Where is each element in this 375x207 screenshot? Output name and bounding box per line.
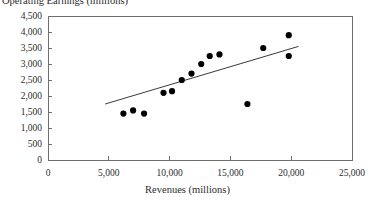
data-point bbox=[141, 111, 147, 117]
data-point bbox=[188, 71, 194, 77]
y-tick-label: 1,500 bbox=[0, 107, 42, 117]
x-tick-label: 20,000 bbox=[268, 168, 314, 178]
data-point bbox=[207, 53, 213, 59]
data-point bbox=[179, 77, 185, 83]
x-tick-label: 10,000 bbox=[147, 168, 193, 178]
y-tick-label: 3,500 bbox=[0, 43, 42, 53]
data-point bbox=[160, 90, 166, 96]
y-tick-label: 500 bbox=[0, 139, 42, 149]
y-tick-label: 0 bbox=[0, 155, 42, 165]
axes bbox=[48, 16, 352, 160]
x-tick-label: 5,000 bbox=[86, 168, 132, 178]
axis-frame bbox=[48, 16, 352, 160]
data-point bbox=[216, 51, 222, 57]
y-tick-label: 1,000 bbox=[0, 123, 42, 133]
data-point bbox=[286, 53, 292, 59]
data-point bbox=[120, 111, 126, 117]
trend-line-segment bbox=[105, 46, 298, 104]
y-tick-label: 2,500 bbox=[0, 75, 42, 85]
x-axis-title: Revenues (millions) bbox=[0, 184, 375, 196]
y-tick-label: 4,000 bbox=[0, 27, 42, 37]
data-point bbox=[169, 88, 175, 94]
x-tick-label: 15,000 bbox=[207, 168, 253, 178]
x-tick-label: 25,000 bbox=[329, 168, 375, 178]
data-point bbox=[198, 61, 204, 67]
data-point bbox=[260, 45, 266, 51]
y-axis-ticks bbox=[48, 16, 52, 160]
y-tick-label: 4,500 bbox=[0, 11, 42, 21]
x-tick-label: 0 bbox=[25, 168, 71, 178]
y-tick-label: 3,000 bbox=[0, 59, 42, 69]
scatter-chart: Operating Earnings (millions) 05001,0001… bbox=[0, 0, 375, 207]
trend-line bbox=[105, 46, 298, 104]
data-point bbox=[244, 101, 250, 107]
data-point bbox=[130, 107, 136, 113]
data-point bbox=[286, 32, 292, 38]
x-axis-ticks bbox=[48, 156, 352, 160]
y-tick-label: 2,000 bbox=[0, 91, 42, 101]
